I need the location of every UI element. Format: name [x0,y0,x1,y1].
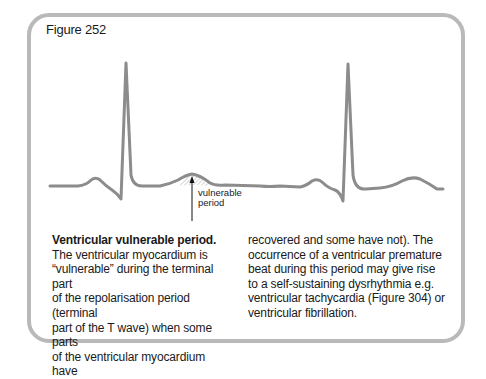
caption-line: ventricular tachycardia (Figure 304) or [248,291,448,306]
caption-line: of the ventricular myocardium have [52,350,230,379]
caption-line: recovered and some have not). The [248,233,448,248]
caption-line: beat during this period may give rise [248,262,448,277]
caption-line: “vulnerable” during the terminal part [52,262,230,291]
caption-line: ventricular fibrillation. [248,306,448,321]
caption-line: occurrence of a ventricular premature [248,248,448,263]
caption-line: The ventricular myocardium is [52,248,230,263]
caption-line: to a self-sustaining dysrhythmia e.g. [248,277,448,292]
caption-line: of the repolarisation period (terminal [52,291,230,320]
annotation-line-2: period [198,198,242,208]
caption-line: part of the T wave) when some parts [52,321,230,350]
caption-right-column: recovered and some have not). The occurr… [248,233,448,321]
caption-heading: Ventricular vulnerable period. [52,233,216,247]
vulnerable-period-annotation: vulnerable period [198,188,242,208]
ecg-trace [50,63,443,201]
caption-left-column: Ventricular vulnerable period. The ventr… [52,233,230,379]
